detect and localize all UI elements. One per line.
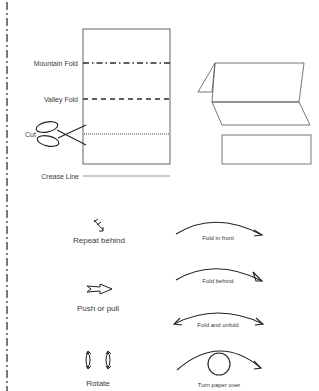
repeat-behind-arrow-icon (94, 219, 103, 231)
diagram-canvas (0, 0, 319, 391)
fold-behind-label: Fold behind (202, 278, 233, 284)
fold-unfold-label: Fold and unfold (197, 322, 238, 328)
cut-label: Cut (25, 131, 36, 138)
scissors-icon (35, 120, 86, 148)
push-pull-arrow-icon (87, 284, 112, 294)
turn-over-label: Turn paper over (198, 382, 240, 388)
rotate-label: Rotate (86, 380, 110, 388)
mountain-fold-label: Mountain Fold (0, 60, 78, 67)
repeat-behind-label: Repeat behind (73, 237, 125, 245)
paper-sheet (83, 29, 170, 164)
fold-in-front-label: Fold in front (202, 235, 234, 241)
crease-line-label: Crease Line (0, 173, 79, 180)
valley-fold-label: Valley Fold (0, 96, 78, 103)
rotate-arrows-icon (86, 351, 111, 369)
fold-in-front-arrow-icon (176, 222, 262, 236)
paper-side-view (222, 135, 311, 164)
push-pull-label: Push or pull (77, 305, 119, 313)
folded-paper-illustration (198, 63, 310, 125)
turn-over-arrow-icon (177, 351, 261, 375)
